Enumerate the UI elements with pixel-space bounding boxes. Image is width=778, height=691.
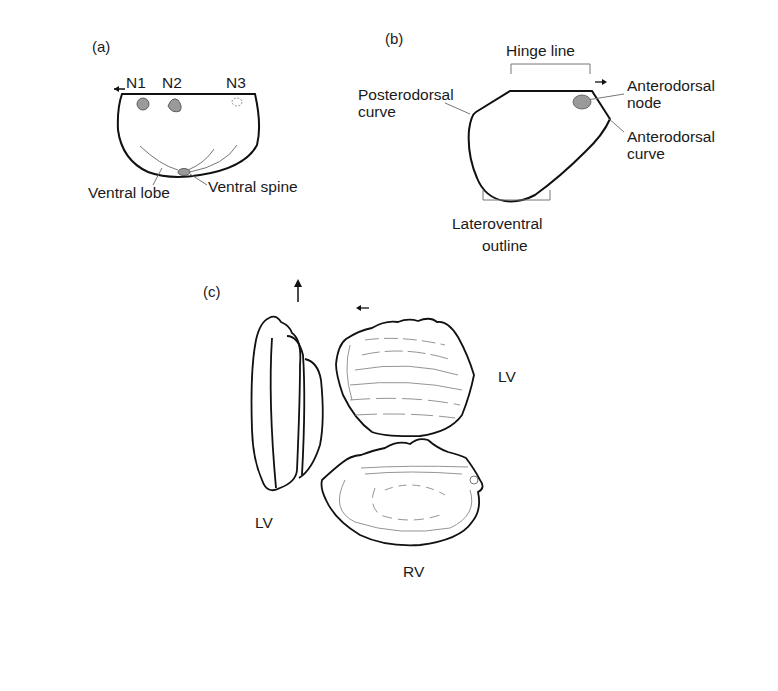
- anterodorsal-node-shape: [573, 95, 591, 109]
- node-label-n3: N3: [226, 74, 246, 91]
- internal-view-rv: [322, 439, 483, 545]
- node-n1: [137, 98, 149, 110]
- panel-a-drawing: [114, 86, 259, 177]
- panel-c-label: (c): [203, 283, 221, 300]
- panel-b-label: (b): [385, 30, 403, 47]
- lateroventral-outline-label-1: Lateroventral: [452, 215, 542, 232]
- anterodorsal-curve-label-2: curve: [627, 145, 665, 162]
- hinge-line-label: Hinge line: [506, 42, 575, 59]
- external-view-lv: [336, 319, 474, 436]
- carapace-outline-b: [469, 91, 610, 201]
- node-label-n2: N2: [162, 74, 182, 91]
- panel-a-label: (a): [92, 38, 110, 55]
- ventral-spine-label: Ventral spine: [208, 178, 298, 195]
- anterodorsal-node-label-1: Anterodorsal: [627, 77, 715, 94]
- dorsal-view: [252, 317, 323, 491]
- dorsal-view-lv-label: LV: [255, 514, 273, 531]
- muscle-scar: [470, 476, 478, 484]
- ventral-lobe-label: Ventral lobe: [88, 184, 170, 201]
- posterodorsal-curve-label-2: curve: [358, 103, 396, 120]
- external-view-lv-label: LV: [498, 368, 516, 385]
- hinge-bracket: [511, 64, 590, 74]
- internal-view-rv-label: RV: [403, 563, 424, 580]
- node-label-n1: N1: [126, 74, 146, 91]
- posterodorsal-curve-label-1: Posterodorsal: [358, 86, 454, 103]
- anterodorsal-curve-label-1: Anterodorsal: [627, 128, 715, 145]
- node-n2: [168, 99, 181, 112]
- lateroventral-outline-label-2: outline: [482, 237, 528, 254]
- anterodorsal-node-label-2: node: [627, 94, 661, 111]
- node-n3: [232, 98, 242, 106]
